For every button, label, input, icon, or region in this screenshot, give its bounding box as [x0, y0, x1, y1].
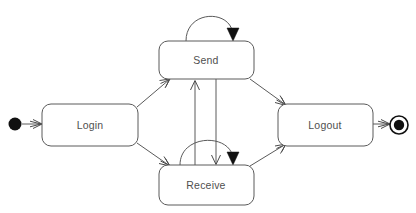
transition-receive-self-loop-arc — [180, 140, 233, 165]
state-diagram-svg: Login Send Receive Logout — [0, 0, 416, 213]
state-node-send[interactable]: Send — [159, 41, 254, 79]
transition-send-to-logout-line — [250, 79, 286, 105]
transition-send-self-loop-arrowhead — [227, 28, 239, 41]
transition-receive-to-logout — [250, 144, 286, 166]
state-login-label: Login — [77, 119, 104, 131]
transition-send-to-logout — [250, 79, 286, 106]
state-send-label: Send — [193, 54, 218, 66]
state-node-logout[interactable]: Logout — [278, 104, 373, 146]
final-state-dot-icon — [394, 120, 404, 130]
transition-send-to-receive — [212, 79, 221, 165]
transition-initial-to-login — [22, 120, 42, 129]
transition-login-to-send — [137, 79, 170, 107]
final-state-node[interactable] — [390, 116, 408, 134]
transition-login-to-receive — [137, 143, 170, 166]
transition-login-to-receive-line — [137, 143, 170, 166]
state-receive-label: Receive — [186, 179, 225, 191]
state-node-receive[interactable]: Receive — [159, 165, 254, 205]
transition-receive-self-loop — [180, 140, 239, 165]
initial-state-node[interactable] — [9, 118, 22, 131]
transition-receive-self-loop-arrowhead — [227, 152, 239, 165]
state-logout-label: Logout — [308, 119, 341, 131]
transition-login-to-send-line — [137, 79, 170, 107]
state-diagram-canvas: Login Send Receive Logout — [0, 0, 416, 213]
transition-receive-to-logout-line — [250, 144, 286, 166]
initial-state-circle-icon[interactable] — [9, 118, 22, 131]
transition-send-self-loop-arc — [186, 16, 233, 41]
transition-send-self-loop — [186, 16, 239, 41]
transition-logout-to-final — [373, 120, 390, 129]
state-node-login[interactable]: Login — [42, 104, 138, 146]
